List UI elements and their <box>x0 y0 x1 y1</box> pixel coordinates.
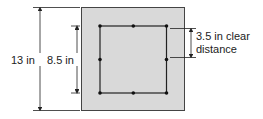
concrete-section <box>82 8 185 111</box>
bar <box>98 58 102 62</box>
bar <box>98 24 102 28</box>
bar <box>132 91 136 95</box>
clear-distance-label-line1: 3.5 in clear <box>196 30 250 42</box>
column-section-diagram: 13 in 8.5 in 3.5 in clear distance <box>0 0 263 119</box>
bar <box>165 58 169 62</box>
bar <box>98 91 102 95</box>
clear-distance-label-line2: distance <box>196 43 237 55</box>
bar <box>165 91 169 95</box>
bar <box>165 24 169 28</box>
inner-dimension-label: 8.5 in <box>47 54 74 66</box>
bar <box>132 24 136 28</box>
outer-dimension-label: 13 in <box>11 54 35 66</box>
